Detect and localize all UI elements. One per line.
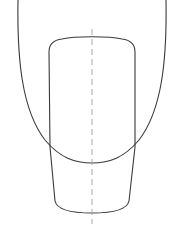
nail-outline-diagram (0, 0, 174, 230)
